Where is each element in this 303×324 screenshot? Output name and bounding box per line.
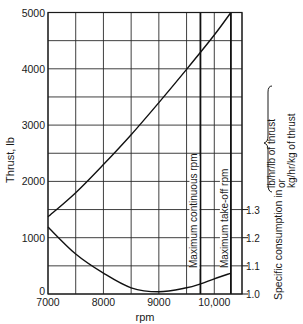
y2-tick-label: 1.1 xyxy=(246,261,260,272)
rpm-limit-label: Maximum continuous rpm xyxy=(188,154,199,268)
thrust-consumption-chart: Maximum continuous rpmMaximum take-off r… xyxy=(0,0,303,324)
y-tick-label: 3000 xyxy=(22,119,46,131)
y2-tick-label: 1.3 xyxy=(246,205,260,216)
y-axis-label: Thrust, lb xyxy=(4,137,16,183)
y2-tick-label: 1.2 xyxy=(246,233,260,244)
y-tick-label: 2000 xyxy=(22,175,46,187)
y2-tick-label: 1.0 xyxy=(246,289,260,300)
y-tick-label: 5000 xyxy=(22,7,46,19)
y-tick-label: 1000 xyxy=(22,232,46,244)
x-tick-label: 10,000 xyxy=(198,296,230,308)
rpm-limit-label: Maximum take-off rpm xyxy=(219,169,230,268)
x-axis-label: rpm xyxy=(136,311,155,323)
y2-axis-label-line3: kg/hr/kg of thrust xyxy=(286,113,297,188)
grid-lines xyxy=(48,13,242,295)
y-tick-label: 4000 xyxy=(22,63,46,75)
x-tick-label: 9000 xyxy=(147,296,171,308)
x-tick-label: 8000 xyxy=(92,296,116,308)
x-tick-label: 7000 xyxy=(36,296,60,308)
y2-axis-label-prefix: Specific consumption in xyxy=(272,190,284,300)
